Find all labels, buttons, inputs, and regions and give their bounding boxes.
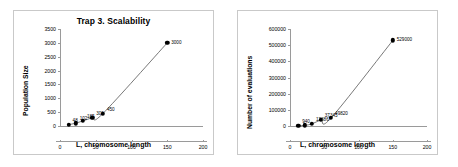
fit-curve	[290, 29, 427, 126]
data-point-marker	[329, 116, 333, 120]
y-tick-label: 500	[47, 109, 56, 115]
y-axis-label-right: Number of evaluations	[246, 56, 253, 129]
y-tick	[288, 110, 290, 111]
fit-curve	[60, 29, 203, 126]
chart-panel-population-size: Trap 3. Scalability Population Size 0500…	[13, 10, 214, 155]
chart-panel-evaluations: Number of evaluations 010000020000030000…	[237, 10, 438, 155]
y-tick-label: 0	[283, 123, 286, 129]
y-tick	[288, 29, 290, 30]
plot-area-right: 0100000200000300000400000500000600000050…	[290, 29, 427, 126]
y-tick-label: 100000	[269, 107, 286, 113]
y-tick-label: 1500	[44, 81, 56, 87]
data-point-marker	[391, 38, 395, 42]
figure-root: Trap 3. Scalability Population Size 0500…	[0, 0, 458, 167]
y-tick-label: 2500	[44, 54, 56, 60]
data-point-label: 450	[107, 106, 115, 111]
y-tick-label: 0	[53, 123, 56, 129]
y-tick	[58, 112, 60, 113]
data-point-marker	[74, 121, 78, 125]
y-tick	[58, 43, 60, 44]
y-tick	[288, 45, 290, 46]
y-axis-line	[60, 29, 61, 126]
y-tick-label: 400000	[269, 58, 286, 64]
y-tick-label: 3500	[44, 26, 56, 32]
y-tick	[58, 84, 60, 85]
y-tick-label: 600000	[269, 26, 286, 32]
y-tick	[58, 98, 60, 99]
plot-area-left: 0500100015002000250030003500050100150200…	[60, 29, 203, 126]
data-point-marker	[81, 119, 85, 123]
data-point-marker	[101, 111, 105, 115]
y-axis-line	[290, 29, 291, 126]
data-point-marker	[90, 115, 94, 119]
y-tick	[288, 126, 290, 127]
y-tick-label: 1000	[44, 95, 56, 101]
y-tick	[58, 57, 60, 58]
data-point-label: 529000	[397, 37, 412, 42]
data-point-label: 3000	[171, 39, 181, 44]
y-tick-label: 200000	[269, 91, 286, 97]
y-tick	[58, 29, 60, 30]
x-axis-label-left: L, chromosome length	[14, 141, 213, 148]
y-tick	[288, 61, 290, 62]
y-axis-label-left: Population Size	[22, 65, 29, 116]
y-tick	[58, 126, 60, 127]
x-axis-label-right: L, chromosome length	[238, 141, 437, 148]
y-tick-label: 300000	[269, 75, 286, 81]
data-point-marker	[319, 118, 323, 122]
x-axis-line	[290, 126, 427, 127]
y-tick	[288, 78, 290, 79]
x-axis-line	[60, 126, 203, 127]
y-tick	[58, 71, 60, 72]
y-tick	[288, 94, 290, 95]
data-point-marker	[165, 41, 169, 45]
y-tick-label: 3000	[44, 40, 56, 46]
data-point-label: 49820	[335, 110, 348, 115]
chart-title-left: Trap 3. Scalability	[14, 16, 213, 26]
y-tick-label: 500000	[269, 42, 286, 48]
data-point-marker	[296, 124, 300, 128]
y-tick-label: 2000	[44, 68, 56, 74]
